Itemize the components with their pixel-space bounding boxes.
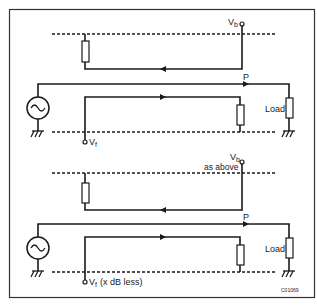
figure-id: C01069 <box>281 287 299 293</box>
arrow-icon <box>160 66 166 72</box>
figure-border <box>10 10 315 298</box>
vf-label: Vf <box>89 137 97 148</box>
coupled-line-backward <box>85 25 242 69</box>
p-label: P <box>243 72 249 82</box>
arrow-icon <box>160 207 166 213</box>
terminal-icon <box>240 22 244 26</box>
panel-1 <box>27 22 295 144</box>
vf-label: Vf(x dB less) <box>89 277 142 288</box>
coupled-line-forward <box>85 237 240 281</box>
terminal-icon <box>83 140 87 144</box>
resistor-icon <box>286 238 293 258</box>
load-label: Load <box>265 104 285 114</box>
coupler-diagram: Vb Vf P Load <box>0 0 317 306</box>
ground-icon <box>31 131 44 137</box>
ground-icon <box>31 271 44 277</box>
resistor-icon <box>82 41 89 62</box>
p-label: P <box>243 212 249 222</box>
terminal-icon <box>240 160 244 164</box>
ground-icon <box>282 271 295 277</box>
arrow-icon <box>160 234 166 240</box>
resistor-icon <box>286 98 293 118</box>
resistor-icon <box>237 105 244 125</box>
ground-icon <box>282 131 295 137</box>
resistor-icon <box>82 183 89 203</box>
vb-note: as above <box>204 162 239 172</box>
resistor-icon <box>237 245 244 265</box>
load-label: Load <box>265 244 285 254</box>
arrow-icon <box>160 94 166 100</box>
panel-2 <box>27 160 295 284</box>
terminal-icon <box>83 280 87 284</box>
vb-label: Vb <box>228 17 238 28</box>
coupled-line-forward <box>85 97 240 141</box>
